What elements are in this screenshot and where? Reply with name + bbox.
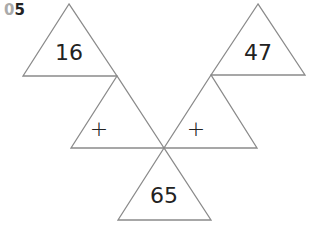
value-top-right: 47 <box>228 40 288 65</box>
value-top-left: 16 <box>39 40 99 65</box>
operator-middle-left: + <box>79 116 119 141</box>
value-bottom: 65 <box>134 183 194 208</box>
operator-middle-right: + <box>176 116 216 141</box>
